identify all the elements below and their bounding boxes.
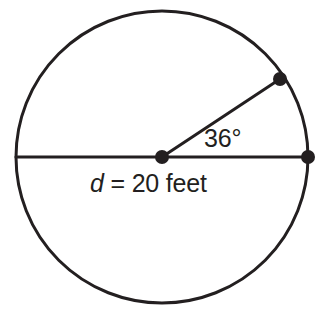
diameter-equals-sign: = (110, 169, 124, 197)
circle-diagram-figure: 36° d = 20 feet (0, 0, 326, 319)
right-diameter-endpoint-dot (301, 150, 315, 164)
diameter-variable-symbol: d (90, 169, 104, 197)
radius-arc-endpoint-dot (273, 72, 287, 86)
diameter-value-text: 20 feet (132, 169, 207, 197)
center-point-dot (155, 150, 169, 164)
angle-measure-label: 36° (204, 126, 241, 151)
circle-diagram-canvas (0, 0, 326, 319)
diameter-measure-label: d = 20 feet (90, 171, 207, 196)
